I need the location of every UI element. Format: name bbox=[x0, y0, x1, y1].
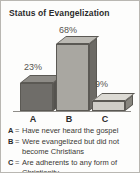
bar-a-front-face bbox=[20, 83, 53, 111]
legend-item-b-cont: become Christians bbox=[8, 147, 136, 157]
legend-text-c-line2: Christianity bbox=[22, 168, 59, 173]
category-tick-b: B bbox=[61, 114, 77, 124]
chart-baseline bbox=[13, 111, 131, 112]
value-label-b: 68% bbox=[59, 25, 77, 35]
legend-text-b: Were evangelized but did not bbox=[22, 137, 119, 147]
legend-item-b: B = Were evangelized but did not bbox=[8, 137, 136, 147]
legend-equals-a: = bbox=[15, 126, 22, 136]
bars-container: 23% 68% 9% bbox=[1, 21, 140, 112]
category-tick-a: A bbox=[25, 114, 41, 124]
legend-equals-b: = bbox=[15, 137, 22, 147]
category-tick-c: C bbox=[97, 114, 113, 124]
legend-key-c: C bbox=[8, 158, 15, 168]
page-title: Status of Evangelization bbox=[9, 8, 110, 18]
legend-text-b-line2: become Christians bbox=[22, 147, 84, 157]
legend-text-a: Have never heard the gospel bbox=[22, 126, 118, 136]
bar-category-a[interactable] bbox=[20, 83, 53, 111]
bar-c-front-face bbox=[92, 101, 125, 111]
legend-text-c: Are adherents to any form of bbox=[22, 158, 117, 168]
bar-chart: 23% 68% 9% bbox=[1, 21, 140, 116]
value-label-c: 9% bbox=[95, 79, 108, 89]
evangelization-chart-panel: Status of Evangelization 23% bbox=[0, 0, 140, 173]
bar-category-c[interactable] bbox=[92, 101, 125, 111]
category-axis: A B C bbox=[1, 114, 140, 126]
chart-legend: A = Have never heard the gospel B = Were… bbox=[8, 126, 136, 173]
bar-category-b[interactable] bbox=[56, 44, 89, 111]
bar-b-front-face bbox=[56, 44, 89, 111]
legend-item-a: A = Have never heard the gospel bbox=[8, 126, 136, 136]
legend-key-b: B bbox=[8, 137, 15, 147]
legend-equals-c: = bbox=[15, 158, 22, 168]
legend-item-c: C = Are adherents to any form of bbox=[8, 158, 136, 168]
legend-key-a: A bbox=[8, 126, 15, 136]
legend-item-c-cont: Christianity bbox=[8, 168, 136, 173]
value-label-a: 23% bbox=[24, 62, 42, 72]
